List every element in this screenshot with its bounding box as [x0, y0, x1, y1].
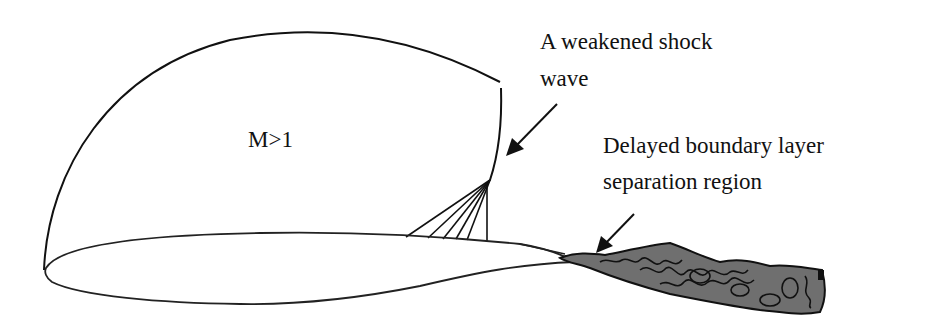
- shock-label-line1: A weakened shock: [540, 28, 712, 56]
- supersonic-region-label: M>1: [248, 126, 293, 154]
- airfoil-outline: [45, 233, 575, 305]
- separation-arrow: [596, 214, 634, 253]
- shock-arrow: [506, 104, 557, 156]
- separation-wake-region: [560, 243, 825, 314]
- expansion-fan: [406, 180, 490, 241]
- separation-label-line1: Delayed boundary layer: [603, 132, 824, 160]
- shock-wave-line: [490, 88, 501, 180]
- separation-label-line2: separation region: [603, 168, 762, 196]
- shock-label-line2: wave: [540, 65, 589, 93]
- wake-end-cap: [818, 270, 824, 280]
- airfoil-shock-diagram: [0, 0, 927, 334]
